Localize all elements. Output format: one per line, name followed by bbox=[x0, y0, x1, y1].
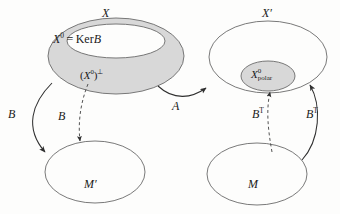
arrow-BT-outer-right-path bbox=[302, 85, 318, 160]
label-set-X: X bbox=[102, 7, 109, 19]
label-arrow-BT-outer-right: BT bbox=[306, 108, 318, 120]
math-diagram: X X′ X0 = KerB (X0)⊥ X0polar M′ M B B A … bbox=[0, 0, 340, 214]
label-set-X-prime: X′ bbox=[262, 7, 272, 19]
polar-X: X bbox=[251, 68, 258, 80]
label-arrow-B-outer-left: B bbox=[8, 108, 15, 120]
arrow-BT-dashed-right-path bbox=[268, 92, 272, 152]
label-arrow-A: A bbox=[172, 100, 179, 112]
perp-symbol: ⊥ bbox=[97, 68, 103, 75]
label-arrow-BT-dashed-right: BT bbox=[252, 108, 264, 120]
bt-outer-superscript: T bbox=[313, 106, 318, 115]
arrow-B-dashed-left-path bbox=[79, 84, 88, 141]
set-M-shape bbox=[207, 143, 307, 205]
label-x-zero-perp: (X0)⊥ bbox=[80, 70, 103, 81]
polar-subscript: polar bbox=[258, 75, 272, 82]
arrow-A-path bbox=[158, 86, 206, 96]
arrow-B-outer-left-path bbox=[33, 83, 52, 152]
kernel-operand: B bbox=[94, 32, 101, 46]
label-set-M-prime: M′ bbox=[84, 178, 97, 190]
polar-indices: 0polar bbox=[258, 68, 272, 83]
kernel-operator: Ker bbox=[76, 32, 94, 46]
set-M-prime-shape bbox=[45, 141, 145, 203]
label-kernel-equation: X0 = KerB bbox=[53, 33, 101, 45]
label-set-M: M bbox=[248, 178, 258, 190]
label-polar-set: X0polar bbox=[251, 68, 272, 83]
diagram-canvas bbox=[0, 0, 340, 214]
bt-inner-superscript: T bbox=[259, 106, 264, 115]
label-arrow-B-dashed-left: B bbox=[58, 110, 65, 122]
